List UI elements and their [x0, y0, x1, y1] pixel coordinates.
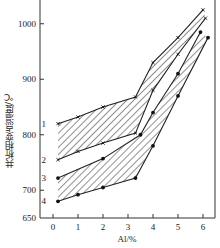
x-tick-label: 1 [76, 222, 81, 232]
y-tick-label: 800 [23, 130, 37, 140]
dot-marker-icon [206, 36, 210, 40]
dot-marker-icon [199, 30, 203, 34]
dot-marker-icon [56, 176, 60, 180]
y-tick-label: 900 [23, 74, 37, 84]
x-tick-label: 3 [126, 222, 131, 232]
x-axis-title: Al/% [118, 234, 138, 244]
curve-label-4: 4 [42, 196, 47, 206]
y-tick-label: 700 [23, 185, 37, 195]
y-axis-title: 共析相变点温度/℃ [2, 70, 16, 190]
dot-marker-icon [176, 72, 180, 76]
x-tick-label: 0 [51, 222, 56, 232]
y-tick-label: 1000 [18, 19, 37, 29]
dot-marker-icon [176, 94, 180, 98]
phase-transformation-chart: 6507008009001000 0123456 1234 Al/% [0, 0, 220, 248]
curve-labels: 1234 [42, 119, 47, 207]
dot-marker-icon [101, 186, 105, 190]
x-ticks: 0123456 [51, 214, 206, 232]
dot-marker-icon [151, 144, 155, 148]
curve-label-2: 2 [42, 155, 47, 165]
x-tick-label: 2 [101, 222, 106, 232]
y-tick-label: 650 [23, 213, 37, 223]
dot-marker-icon [101, 157, 105, 161]
dot-marker-icon [76, 193, 80, 197]
x-tick-label: 6 [201, 222, 206, 232]
dot-marker-icon [151, 111, 155, 115]
curve-label-3: 3 [42, 173, 47, 183]
x-tick-label: 5 [176, 222, 181, 232]
dot-marker-icon [56, 199, 60, 203]
dot-marker-icon [139, 133, 143, 137]
curve-label-1: 1 [42, 119, 47, 129]
x-tick-label: 4 [151, 222, 156, 232]
dot-marker-icon [134, 176, 138, 180]
